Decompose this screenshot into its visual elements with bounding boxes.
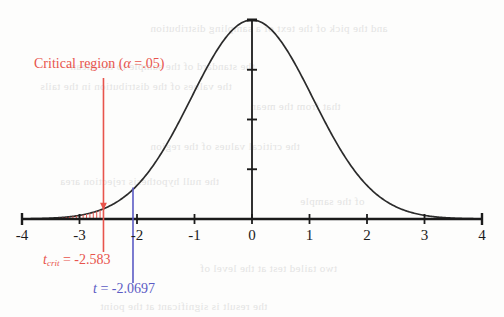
axis-group [22,20,482,225]
x-axis-tick-label: -4 [16,227,29,244]
x-axis-tick-label: -2 [131,227,144,244]
t-crit-subscript: crit [47,258,60,268]
t-crit-value: = -2.583 [59,252,110,267]
x-axis-tick-label: 1 [306,227,314,244]
t-distribution-plot [0,0,504,317]
alpha-symbol: α [123,56,130,71]
x-axis-tick-label: 3 [421,227,429,244]
critical-region-label: Critical region (α =.05) [34,56,164,72]
critical-region-text-before: Critical region ( [34,56,123,71]
critical-region-text-after: =.05) [131,56,165,71]
t-distribution-figure: and the pick of the text of a sampling d… [0,0,504,317]
x-axis-tick-label: 2 [363,227,371,244]
t-crit-label: tcrit = -2.583 [43,252,110,268]
t-observed-value: = -2.0697 [97,281,155,296]
x-axis-tick-label: 4 [478,227,486,244]
x-axis-tick-label: 0 [248,227,256,244]
x-axis-tick-label: -1 [188,227,201,244]
t-observed-label: t = -2.0697 [93,281,155,297]
x-axis-tick-label: -3 [73,227,86,244]
